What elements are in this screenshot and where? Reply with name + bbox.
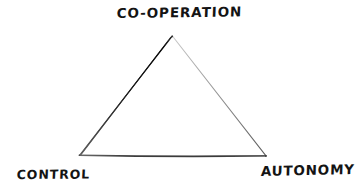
- vertex-apex: [171, 36, 173, 38]
- vertex-bottom-right: [265, 155, 267, 157]
- triangle-bottom-edge: [79, 155, 266, 156]
- triangle-left-edge-core: [80, 36, 173, 155]
- label-control: CONTROL: [16, 168, 90, 181]
- triangle-right-edge: [172, 36, 265, 156]
- label-autonomy: AUTONOMY: [261, 163, 355, 178]
- label-cooperation: CO-OPERATION: [116, 5, 242, 20]
- diagram-canvas: CO-OPERATION CONTROL AUTONOMY: [0, 0, 357, 196]
- vertex-bottom-left: [79, 155, 81, 157]
